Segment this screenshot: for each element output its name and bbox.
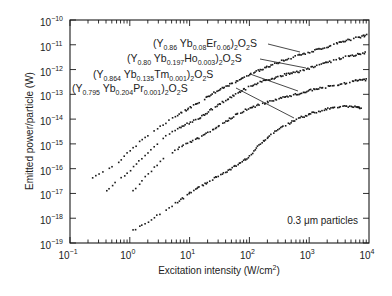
y-tick-label: 10−13 <box>40 89 63 102</box>
leader-line <box>236 88 294 118</box>
x-tick-label: 104 <box>359 248 374 261</box>
series-3 <box>132 105 362 231</box>
series-label: (Y0.86 Yb0.08Er0.06)2O2S <box>153 37 257 51</box>
y-tick-label: 10−18 <box>40 213 63 226</box>
x-axis-title: Excitation intensity (W/cm2) <box>158 264 280 276</box>
x-tick-label: 10−1 <box>58 248 77 261</box>
series-label: (Y0.864 Yb0.135Tm0.001)2O2S <box>93 68 213 82</box>
x-tick-label: 102 <box>240 248 255 261</box>
series-label: (Y0.795 Yb0.204Pr0.001)2O2S <box>72 82 188 96</box>
particle-size-annotation: 0.3 μm particles <box>287 215 358 226</box>
chart: 10−1100101102103104 10−1010−1110−1210−13… <box>0 0 392 296</box>
y-tick-label: 10−11 <box>40 40 63 53</box>
y-tick-labels: 10−1010−1110−1210−1310−1410−1510−1610−17… <box>40 15 63 251</box>
series-1 <box>106 51 366 191</box>
y-tick-label: 10−17 <box>40 188 63 201</box>
x-tick-label: 103 <box>300 248 315 261</box>
y-axis-title: Emitted power/particle (W) <box>24 72 35 190</box>
x-tick-label: 100 <box>120 248 135 261</box>
x-tick-label: 101 <box>180 248 195 261</box>
axis-ticks <box>70 20 369 243</box>
leader-line <box>268 44 300 52</box>
plot-frame <box>70 20 369 243</box>
series-label: (Y0.80 Yb0.197Ho0.003)2O2S <box>127 52 242 66</box>
x-tick-labels: 10−1100101102103104 <box>58 248 374 261</box>
y-tick-label: 10−14 <box>40 114 63 127</box>
y-tick-label: 10−12 <box>40 65 63 78</box>
y-tick-label: 10−15 <box>40 139 63 152</box>
y-tick-label: 10−10 <box>40 15 63 28</box>
y-tick-label: 10−16 <box>40 164 63 177</box>
